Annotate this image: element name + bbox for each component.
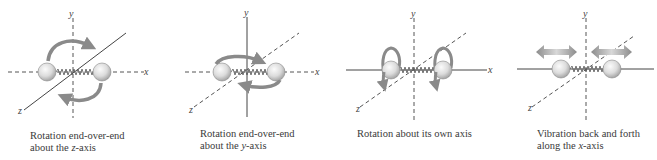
x-axis-label: x xyxy=(314,66,320,77)
caption-line-2: along the x-axis xyxy=(537,140,640,152)
x-axis-label: x xyxy=(143,66,149,77)
caption-line-2: about the y-axis xyxy=(200,140,295,152)
atom-right-icon xyxy=(267,63,285,81)
caption-line-1: Rotation end-over-end xyxy=(200,128,295,140)
double-arrow-right-icon xyxy=(591,45,632,59)
y-axis-label: y xyxy=(410,8,416,19)
z-axis-label: z xyxy=(355,103,360,114)
rotation-arrow-top-icon xyxy=(48,41,90,61)
double-arrow-left-icon xyxy=(536,45,577,59)
caption-x-vibration: Vibration back and forth along the x-axi… xyxy=(537,128,640,152)
panel-z-rotation: y x z xyxy=(8,8,149,118)
z-axis-label: z xyxy=(527,102,532,113)
loop-arrow-left-front-icon xyxy=(383,72,384,86)
atom-left-icon xyxy=(213,63,231,81)
caption-line-1: Rotation about its own axis xyxy=(357,128,472,140)
caption-y-rotation: Rotation end-over-end about the y-axis xyxy=(200,128,295,152)
caption-own-axis-rotation: Rotation about its own axis xyxy=(357,128,472,140)
z-axis-label: z xyxy=(188,104,193,115)
caption-line-2: about the z-axis xyxy=(30,142,125,154)
y-axis-label: y xyxy=(243,7,249,18)
z-axis-label: z xyxy=(17,105,22,116)
x-axis-label: x xyxy=(487,64,493,75)
loop-arrow-right-front-icon xyxy=(435,72,436,86)
atom-right-icon xyxy=(93,63,111,81)
atom-left-icon xyxy=(552,60,570,78)
panel-own-axis-rotation: y x z xyxy=(346,8,493,120)
panel-x-vibration: y z xyxy=(517,8,654,120)
y-axis-label: y xyxy=(582,8,588,19)
caption-line-1: Vibration back and forth xyxy=(537,128,640,140)
atom-right-icon xyxy=(603,60,621,78)
atom-left-icon xyxy=(38,63,56,81)
caption-line-1: Rotation end-over-end xyxy=(30,130,125,142)
caption-z-rotation: Rotation end-over-end about the z-axis xyxy=(30,130,125,154)
y-axis-label: y xyxy=(68,8,74,19)
rotation-arrow-bottom-icon xyxy=(64,83,101,100)
panel-y-rotation: y x z xyxy=(185,7,320,117)
